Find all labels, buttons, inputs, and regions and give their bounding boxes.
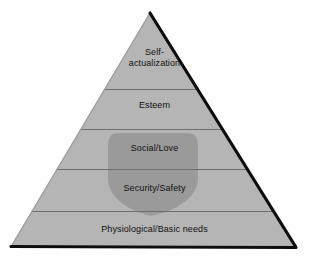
pyramid-graphic (0, 0, 309, 259)
tier-label-physiological-basic-needs: Physiological/Basic needs (0, 224, 309, 235)
pyramid-diagram: Self- actualization Esteem Social/Love S… (0, 0, 309, 259)
tier-label-self-actualization: Self- actualization (0, 47, 309, 69)
tier-label-esteem: Esteem (0, 100, 309, 111)
pyramid-base-edge (11, 247, 296, 248)
tier-label-security-safety: Security/Safety (0, 183, 309, 194)
tier-label-social-love: Social/Love (0, 143, 309, 154)
